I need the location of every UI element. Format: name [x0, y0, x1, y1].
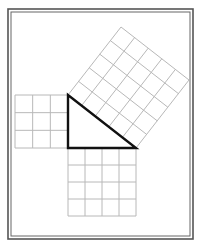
- pythagoras-diagram: [0, 0, 203, 243]
- inner-frame: [11, 12, 190, 236]
- outer-frame: [8, 9, 193, 239]
- bottom-leg-square: [68, 148, 136, 216]
- right-triangle: [68, 95, 136, 148]
- left-leg-square: [15, 95, 68, 148]
- hypotenuse-square: [68, 27, 189, 148]
